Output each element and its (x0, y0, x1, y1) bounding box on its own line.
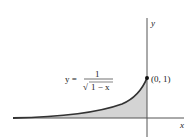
shaded-region (13, 78, 147, 118)
y-axis-label: y (150, 18, 155, 28)
x-axis-label: x (179, 120, 184, 130)
svg-text:1 − x: 1 − x (91, 82, 110, 92)
svg-text:y =: y = (65, 74, 77, 84)
graph: (0, 1) y x y = 1 √ 1 − x (0, 0, 194, 140)
point-label: (0, 1) (151, 74, 171, 84)
svg-text:1: 1 (95, 69, 100, 79)
point-0-1 (145, 76, 149, 80)
equation-label: y = 1 √ 1 − x (65, 69, 113, 92)
svg-text:√: √ (83, 82, 88, 92)
